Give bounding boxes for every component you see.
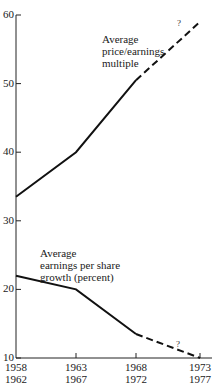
x-tick-label: 19631967 — [59, 361, 93, 385]
x-tick-label: 19581962 — [0, 361, 33, 385]
series-label-line: multiple — [102, 57, 164, 69]
series-label-line: Average — [40, 247, 120, 259]
y-tick-label: 20 — [0, 283, 14, 294]
y-tick-label: 50 — [0, 78, 14, 89]
series-label-line: price/earnings — [102, 45, 164, 57]
series-label-pe-multiple: Average price/earnings multiple — [102, 33, 164, 69]
series-label-line: Average — [102, 33, 164, 45]
x-tick-label: 19731977 — [183, 361, 215, 385]
projection-question-mark-eps: ? — [176, 339, 180, 349]
x-tick-label: 19681972 — [119, 361, 153, 385]
series-label-eps-growth: Average earnings per share growth (perce… — [40, 247, 120, 283]
y-tick-label: 60 — [0, 9, 14, 20]
series-lines — [16, 22, 200, 358]
projection-question-mark-pe: ? — [177, 18, 181, 28]
y-tick-label: 30 — [0, 215, 14, 226]
series-label-line: earnings per share — [40, 259, 120, 271]
y-tick-label: 40 — [0, 146, 14, 157]
series-label-line: growth (percent) — [40, 271, 120, 283]
